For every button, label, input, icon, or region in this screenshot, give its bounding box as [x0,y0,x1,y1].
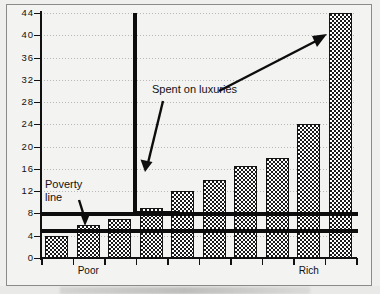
page-smudge [60,287,310,294]
luxuries-arrow-up [0,0,380,294]
chart-figure: 444036322824201612840 PoorRich Poverty l… [0,0,380,294]
